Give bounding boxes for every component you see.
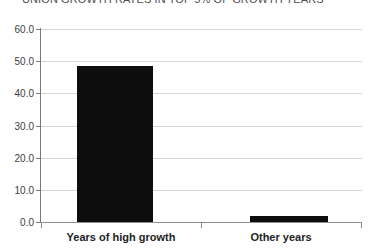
y-axis-tick-label: 10.0	[0, 186, 34, 196]
y-axis-tick-label: 0.0	[0, 218, 34, 228]
y-axis-tick-label: 50.0	[0, 57, 34, 67]
chart-title: UNION GROWTH RATES IN TOP 5% OF GROWTH Y…	[22, 0, 324, 6]
plot-area	[41, 29, 362, 222]
y-axis-tick-label: 40.0	[0, 89, 34, 99]
y-axis-tick-label: 60.0	[0, 25, 34, 35]
gridline	[41, 61, 362, 62]
x-axis-tick	[201, 222, 202, 228]
x-axis-tick	[41, 222, 42, 228]
y-axis-tick-label: 30.0	[0, 122, 34, 132]
x-axis-tick	[361, 222, 362, 228]
chart-screenshot: UNION GROWTH RATES IN TOP 5% OF GROWTH Y…	[0, 0, 368, 252]
bar	[77, 66, 153, 222]
x-axis-category-label: Other years	[201, 231, 361, 244]
gridline	[41, 29, 362, 30]
y-axis-tick-label: 20.0	[0, 154, 34, 164]
y-axis-tick-labels: 60.0 50.0 40.0 30.0 20.0 10.0 0.0	[0, 0, 34, 252]
x-axis-category-label: Years of high growth	[41, 231, 201, 244]
